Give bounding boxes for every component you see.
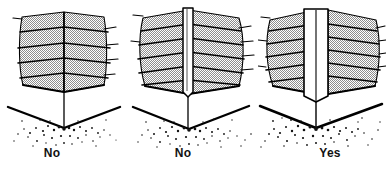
tool-body <box>183 8 193 97</box>
floor-corner-lines <box>133 106 249 129</box>
brush-left-face <box>19 12 64 92</box>
brush-assembly <box>13 12 118 92</box>
illustration-panel-yes: Yes <box>258 0 386 173</box>
illustration-canvas: No <box>0 0 386 173</box>
brush-right-face <box>64 12 107 92</box>
illustration-panel-no-2: No <box>129 0 257 173</box>
corner-brush-diagram-3 <box>258 0 386 150</box>
floor-corner <box>133 106 249 129</box>
debris-scatter <box>13 118 116 146</box>
panel-verdict-label: No <box>119 146 247 160</box>
vertical-tool-wide <box>304 9 328 102</box>
corner-brush-diagram-2 <box>129 0 257 150</box>
panel-verdict-label: No <box>0 146 116 160</box>
panel-verdict-label: Yes <box>266 146 386 160</box>
debris-scatter <box>260 117 380 148</box>
floor-corner <box>260 104 382 128</box>
corner-brush-diagram-1 <box>0 0 128 150</box>
illustration-panel-no-1: No <box>0 0 128 173</box>
floor-corner-lines <box>260 104 382 128</box>
vertical-tool-narrow <box>183 8 193 97</box>
debris-scatter <box>137 118 251 147</box>
